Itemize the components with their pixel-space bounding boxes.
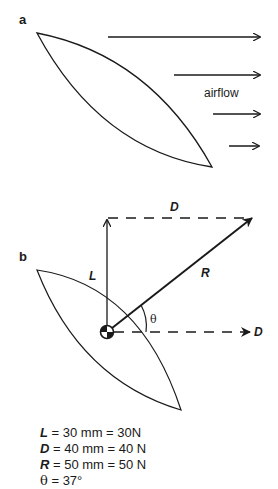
legend-row-angle: θ = 37°: [40, 473, 146, 489]
airflow-label: airflow: [204, 87, 239, 99]
legend-symbol: D: [40, 441, 49, 456]
legend-row-lift: L = 30 mm = 30N: [40, 425, 146, 441]
legend-text: = 37°: [48, 473, 82, 488]
panel-a-label: a: [19, 13, 26, 26]
force-diagram: [0, 0, 278, 489]
drag-label-top: D: [170, 201, 179, 213]
values-legend: L = 30 mm = 30N D = 40 mm = 40 N R = 50 …: [40, 425, 146, 489]
resultant-label: R: [201, 267, 210, 279]
legend-row-resultant: R = 50 mm = 50 N: [40, 457, 146, 473]
lift-label: L: [89, 270, 96, 282]
center-of-pressure-icon: [101, 326, 114, 339]
legend-text: = 40 mm = 40 N: [49, 441, 146, 456]
angle-arc: [141, 305, 146, 332]
legend-symbol: R: [40, 457, 49, 472]
legend-symbol: L: [40, 425, 48, 440]
legend-symbol: θ: [40, 473, 48, 488]
resultant-vector: [107, 218, 252, 332]
legend-row-drag: D = 40 mm = 40 N: [40, 441, 146, 457]
legend-text: = 50 mm = 50 N: [49, 457, 146, 472]
legend-text: = 30 mm = 30N: [48, 425, 141, 440]
drag-label-right: D: [254, 326, 263, 338]
leaf-a-outline: [37, 33, 212, 167]
panel-b-label: b: [19, 250, 27, 263]
angle-label: θ: [150, 314, 157, 325]
